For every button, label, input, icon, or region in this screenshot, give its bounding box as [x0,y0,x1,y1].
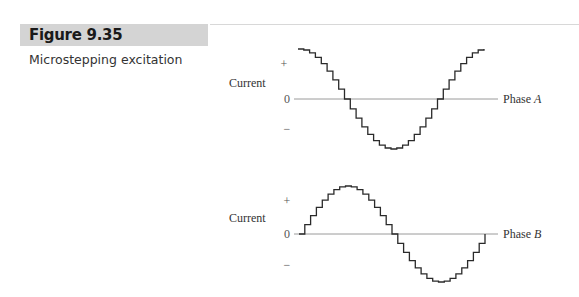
phase-a-plus-tick: + [281,57,288,71]
phase-b-plus-tick: + [284,194,291,208]
phase-b-zero-tick: 0 [284,227,290,241]
phase-a-zero-tick: 0 [284,92,290,106]
phase-b-axis-label: Phase B [503,227,542,241]
phase-b-ylabel: Current [229,211,266,225]
phase-b-panel: Current + 0 − Phase B [229,186,542,282]
phase-a-minus-tick: − [284,122,291,136]
phase-a-panel: Current + 0 − Phase A [229,49,542,149]
microstepping-diagram: Current + 0 − Phase A Current + 0 − Phas… [0,0,579,297]
phase-a-axis-label: Phase A [503,92,542,106]
phase-b-minus-tick: − [284,258,291,272]
phase-a-ylabel: Current [229,76,266,90]
